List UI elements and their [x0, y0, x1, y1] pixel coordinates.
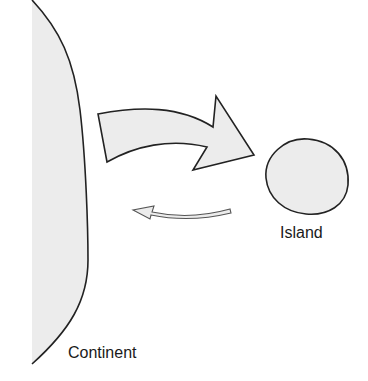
island-shape: [266, 139, 348, 214]
continent-label: Continent: [68, 344, 137, 362]
island-label: Island: [280, 224, 323, 242]
continent-shape: [32, 0, 88, 364]
diagram-canvas: [0, 0, 368, 381]
large-arrow-to-island: [98, 96, 254, 170]
small-arrow-to-continent: [133, 206, 231, 219]
